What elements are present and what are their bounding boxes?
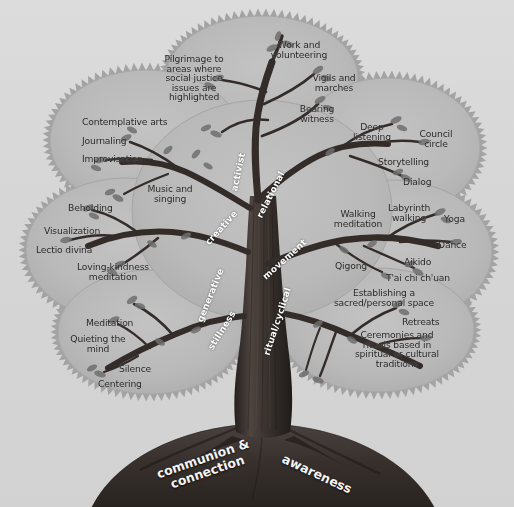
- label-retreats[interactable]: Retreats: [402, 317, 464, 327]
- label-aikido[interactable]: Aikido: [404, 257, 456, 267]
- label-bearing-witness[interactable]: Bearing witness: [281, 104, 353, 123]
- label-dialog[interactable]: Dialog: [403, 177, 465, 187]
- label-ceremonies[interactable]: Ceremonies and rituals based in spiritua…: [339, 330, 455, 368]
- label-yoga[interactable]: Yoga: [444, 214, 494, 224]
- label-council-circle[interactable]: Council circle: [405, 129, 467, 148]
- label-taichi[interactable]: T'ai chi ch'uan: [386, 273, 480, 283]
- label-storytelling[interactable]: Storytelling: [378, 157, 468, 167]
- label-silence[interactable]: Silence: [119, 364, 179, 374]
- label-labyrinth-walking[interactable]: Labyrinth walking: [374, 203, 444, 222]
- figure-caption: [0, 500, 514, 507]
- tree-of-contemplative-practices-figure: activist relational creative movement ge…: [0, 0, 514, 507]
- label-deep-listening[interactable]: Deep listening: [338, 122, 406, 141]
- label-centering[interactable]: Centering: [98, 379, 170, 389]
- label-dance[interactable]: Dance: [438, 240, 492, 250]
- label-qigong[interactable]: Qigong: [335, 261, 389, 271]
- label-contemplative-arts[interactable]: Contemplative arts: [82, 117, 202, 127]
- label-lectio-divina[interactable]: Lectio divina: [36, 245, 128, 255]
- label-quieting-mind[interactable]: Quieting the mind: [55, 334, 141, 353]
- label-work-volunteering[interactable]: Work and volunteering: [255, 40, 343, 59]
- label-music-singing[interactable]: Music and singing: [133, 184, 207, 203]
- label-loving-kindness[interactable]: Loving-kindness meditation: [64, 262, 162, 281]
- label-vigils-marches[interactable]: Vigils and marches: [293, 73, 375, 92]
- label-journaling[interactable]: Journaling: [82, 136, 172, 146]
- label-sacred-space[interactable]: Establishing a sacred/personal space: [316, 288, 452, 307]
- label-visualization[interactable]: Visualization: [44, 226, 138, 236]
- label-beholding[interactable]: Beholding: [68, 203, 152, 213]
- label-improvisation[interactable]: Improvisation: [82, 154, 182, 164]
- label-meditation[interactable]: Meditation: [86, 318, 170, 328]
- label-pilgrimage[interactable]: Pilgrimage to areas where social justice…: [139, 54, 249, 102]
